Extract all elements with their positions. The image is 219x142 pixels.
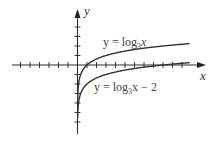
upper-curve-label: y = log3x [103,35,147,51]
lower-label-tail: x − 2 [132,80,157,94]
upper-label-main: y = log [103,35,137,49]
axis-ticks [21,27,183,122]
y-axis-label: y [82,3,90,18]
lower-label-main: y = log [94,80,128,94]
log-graph: y x y = log3x y = log3x − 2 [0,0,219,142]
x-axis-label: x [199,68,206,83]
y-axis-arrow-icon [75,9,81,18]
upper-label-tail: x [140,35,147,49]
lower-curve-label: y = log3x − 2 [94,80,157,96]
